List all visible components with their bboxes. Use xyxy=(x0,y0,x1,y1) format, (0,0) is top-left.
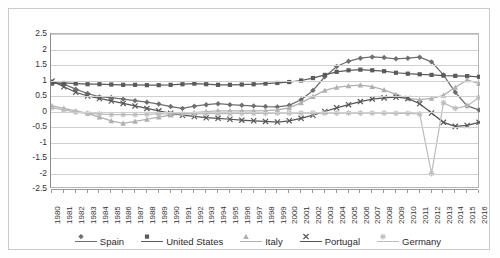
x-axis-tick xyxy=(170,190,171,193)
x-axis-tick-label: 2002 xyxy=(315,206,323,224)
data-point-marker xyxy=(252,82,256,86)
data-point-marker xyxy=(452,106,458,112)
data-point-marker xyxy=(441,100,447,106)
legend-label: Spain xyxy=(100,236,124,247)
x-axis-tick xyxy=(75,190,76,193)
square-marker-icon xyxy=(141,237,163,246)
x-axis-tick xyxy=(288,190,289,193)
x-axis-tick xyxy=(348,190,349,193)
series-united-states xyxy=(51,68,480,88)
x-axis-tick xyxy=(253,190,254,193)
data-point-marker xyxy=(240,82,244,86)
data-point-marker xyxy=(382,69,386,73)
triangle-marker-icon xyxy=(240,237,262,246)
x-axis-tick-label: 2009 xyxy=(398,206,406,224)
x-axis-tick-label: 1999 xyxy=(280,206,288,224)
x-axis-tick-label: 1990 xyxy=(173,206,181,224)
y-axis-tick-label: 0 xyxy=(42,106,47,115)
gridline xyxy=(51,50,478,51)
legend-item-united-states[interactable]: United States xyxy=(141,236,223,247)
x-axis-tick xyxy=(51,190,52,193)
data-point-marker xyxy=(370,54,375,59)
x-axis-tick-label: 1994 xyxy=(220,206,228,224)
data-point-marker xyxy=(97,82,101,86)
data-point-marker xyxy=(251,103,256,108)
x-axis-tick xyxy=(312,190,313,193)
x-axis-tick xyxy=(454,190,455,193)
x-axis-tick xyxy=(158,190,159,193)
data-point-marker xyxy=(394,71,398,75)
gridline xyxy=(51,112,478,113)
gridline xyxy=(51,174,478,175)
legend-item-italy[interactable]: Italy xyxy=(240,236,282,247)
data-point-marker xyxy=(358,55,363,60)
x-axis-tick xyxy=(87,190,88,193)
data-point-marker xyxy=(132,98,137,103)
y-axis-labels: 2.521.510.50-0.5-1-1.5-2-2.5 xyxy=(17,33,47,188)
legend-label: Portugal xyxy=(325,236,360,247)
x-axis-tick-label: 1982 xyxy=(78,206,86,224)
y-axis-tick-label: 1.5 xyxy=(35,60,47,69)
data-point-marker xyxy=(464,103,470,109)
diamond-marker-icon xyxy=(75,237,97,246)
x-axis-tick xyxy=(229,190,230,193)
y-axis-tick-label: 0.5 xyxy=(35,91,47,100)
x-axis-tick xyxy=(241,190,242,193)
x-axis-tick-label: 1997 xyxy=(256,206,264,224)
gridline xyxy=(51,34,478,35)
data-point-marker xyxy=(311,76,315,80)
data-point-marker xyxy=(215,101,220,106)
x-axis-tick xyxy=(336,190,337,193)
x-axis-tick-label: 1980 xyxy=(54,206,62,224)
gridline xyxy=(51,158,478,159)
x-axis-tick-label: 2005 xyxy=(351,206,359,224)
x-axis-tick xyxy=(478,190,479,193)
x-axis-tick xyxy=(181,190,182,193)
x-axis-tick xyxy=(205,190,206,193)
x-axis-tick-label: 2003 xyxy=(327,206,335,224)
plot-area xyxy=(50,33,479,188)
x-axis-tick-label: 1986 xyxy=(125,206,133,224)
x-axis-tick-label: 2010 xyxy=(410,206,418,224)
legend-item-germany[interactable]: Germany xyxy=(377,236,441,247)
x-axis-tick xyxy=(265,190,266,193)
x-axis-tick xyxy=(419,190,420,193)
data-point-marker xyxy=(406,72,410,76)
data-point-marker xyxy=(358,68,362,72)
x-axis-tick xyxy=(395,190,396,193)
y-axis-tick-label: 1 xyxy=(42,75,47,84)
x-axis-tick-label: 1988 xyxy=(149,206,157,224)
x-axis-tick-label: 2008 xyxy=(386,206,394,224)
data-point-marker xyxy=(121,83,125,87)
data-point-marker xyxy=(477,75,480,79)
gridline xyxy=(51,96,478,97)
cross-marker-icon xyxy=(300,237,322,246)
legend-item-spain[interactable]: Spain xyxy=(75,236,124,247)
y-axis-tick-label: 2 xyxy=(42,44,47,53)
y-axis-tick-label: 2.5 xyxy=(35,29,47,38)
y-axis-tick-label: -2.5 xyxy=(32,184,47,193)
data-point-marker xyxy=(168,104,173,109)
x-axis-tick-label: 2016 xyxy=(481,206,489,224)
x-axis-tick xyxy=(63,190,64,193)
x-axis-tick-label: 2015 xyxy=(469,206,477,224)
legend-item-portugal[interactable]: Portugal xyxy=(300,236,360,247)
x-axis-tick-label: 2006 xyxy=(363,206,371,224)
gridline xyxy=(51,81,478,82)
x-axis-tick-label: 2000 xyxy=(291,206,299,224)
data-point-marker xyxy=(405,55,410,60)
gridline xyxy=(51,65,478,66)
x-axis-labels: 1980198119821983198419851986198719881989… xyxy=(50,190,479,226)
data-point-marker xyxy=(370,68,374,72)
x-axis-tick-label: 1989 xyxy=(161,206,169,224)
x-axis-tick xyxy=(442,190,443,193)
data-point-marker xyxy=(228,83,232,87)
data-point-marker xyxy=(85,82,89,86)
x-axis-tick xyxy=(193,190,194,193)
data-point-marker xyxy=(429,73,433,77)
data-point-marker xyxy=(275,81,279,85)
x-axis-tick-label: 2014 xyxy=(457,206,465,224)
x-axis-tick-label: 1991 xyxy=(185,206,193,224)
data-point-marker xyxy=(227,102,232,107)
data-point-marker xyxy=(418,72,422,76)
